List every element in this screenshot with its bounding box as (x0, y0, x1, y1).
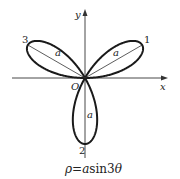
y-axis-arrow-icon (83, 9, 88, 16)
equation-caption: ρ=asin3θ (64, 162, 123, 176)
caption-a: a (82, 162, 89, 176)
petal-1-radius-label: a (113, 47, 119, 58)
origin-label: O (71, 81, 79, 92)
caption-theta: θ (115, 162, 123, 176)
petal-2-label: 2 (79, 145, 85, 156)
caption-equals: = (72, 162, 82, 176)
petal-3-label: 3 (22, 34, 28, 45)
caption-sin3: sin3 (89, 162, 114, 176)
x-axis-label: x (160, 81, 166, 92)
caption-rho: ρ (64, 162, 72, 176)
petal-2-radius-label: a (87, 109, 93, 120)
petal-3-radius-label: a (55, 47, 61, 58)
rose-curve-diagram: y x O 1 2 3 a a a ρ=asin3θ (0, 0, 180, 179)
y-axis-label: y (74, 9, 81, 20)
x-axis-arrow-icon (161, 76, 168, 81)
axes (12, 9, 168, 158)
petal-1-label: 1 (144, 34, 150, 45)
